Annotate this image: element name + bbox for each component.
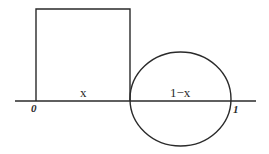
end-label: 1	[233, 104, 239, 115]
origin-label: 0	[31, 103, 37, 114]
segment-one-minus-x-label: 1−x	[170, 86, 190, 99]
segment-x-label: x	[80, 86, 87, 99]
diagram-canvas	[0, 0, 269, 154]
